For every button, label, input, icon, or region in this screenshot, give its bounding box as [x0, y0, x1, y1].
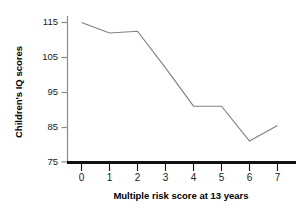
- y-tick-label-75: 75: [47, 156, 58, 167]
- chart-background: [0, 0, 306, 213]
- line-chart-canvas: 75 85 95 105 115 0 1 2 3 4 5 6: [0, 0, 306, 213]
- x-tick-label-5: 5: [219, 172, 225, 183]
- x-tick-label-7: 7: [275, 172, 281, 183]
- x-axis-title: Multiple risk score at 13 years: [113, 190, 248, 201]
- x-tick-label-4: 4: [191, 172, 197, 183]
- x-tick-label-6: 6: [247, 172, 253, 183]
- x-tick-label-3: 3: [163, 172, 169, 183]
- y-tick-label-105: 105: [42, 51, 58, 62]
- x-tick-label-1: 1: [107, 172, 113, 183]
- y-tick-label-85: 85: [47, 121, 58, 132]
- y-axis-title: Children's IQ scores: [13, 46, 24, 138]
- y-tick-label-95: 95: [47, 86, 58, 97]
- chart-figure: 75 85 95 105 115 0 1 2 3 4 5 6: [0, 0, 306, 213]
- x-tick-label-2: 2: [135, 172, 141, 183]
- y-tick-label-115: 115: [43, 16, 58, 27]
- x-tick-label-0: 0: [79, 172, 85, 183]
